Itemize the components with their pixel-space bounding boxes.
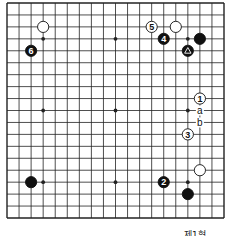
white-stone <box>194 165 205 176</box>
move-number: 4 <box>161 34 166 44</box>
stone-body <box>194 165 205 176</box>
black-stone <box>194 33 205 44</box>
black-stone: 4 <box>158 33 169 44</box>
black-stone: 6 <box>26 45 37 56</box>
white-stone: 3 <box>182 129 193 140</box>
star-point <box>41 180 45 184</box>
stone-body <box>182 189 193 200</box>
stone-body <box>38 21 49 32</box>
star-point <box>114 109 118 113</box>
black-stone: 2 <box>158 177 169 188</box>
stone-body <box>194 33 205 44</box>
move-number: 6 <box>29 46 34 56</box>
star-point <box>186 180 190 184</box>
black-stone <box>182 45 193 56</box>
white-stone: 1 <box>194 93 205 104</box>
star-point <box>114 37 118 41</box>
black-stone <box>26 177 37 188</box>
move-number: 2 <box>161 177 166 187</box>
black-stone <box>182 189 193 200</box>
marker-letter-a: a <box>197 105 203 116</box>
star-point <box>186 37 190 41</box>
star-point <box>41 109 45 113</box>
white-stone <box>38 21 49 32</box>
star-point <box>41 37 45 41</box>
move-number: 3 <box>185 130 190 140</box>
star-point <box>186 109 190 113</box>
move-number: 1 <box>197 94 202 104</box>
go-board: ab 654132 <box>0 0 227 236</box>
stone-body <box>26 177 37 188</box>
star-point <box>114 180 118 184</box>
marker-letter-b: b <box>197 117 203 128</box>
stone-body <box>170 21 181 32</box>
letter-markers: ab <box>196 105 204 128</box>
white-stone <box>170 21 181 32</box>
move-number: 5 <box>149 22 154 32</box>
white-stone: 5 <box>146 21 157 32</box>
diagram-caption: 제1형 <box>184 228 206 236</box>
